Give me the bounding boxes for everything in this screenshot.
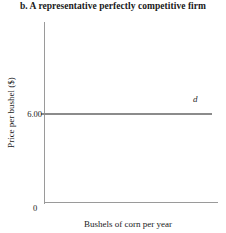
x-axis-line [44,202,218,203]
x-axis-title: Bushels of corn per year [30,219,226,230]
y-axis-title: Price per bushel ($) [6,54,17,172]
page-title: b. A representative perfectly competitiv… [0,0,226,13]
y-axis-tick-label-6: 6.00 [17,109,42,119]
origin-label: 0 [33,203,37,213]
demand-curve-line [45,113,212,115]
demand-curve-label: d [193,94,198,104]
figure-panel-b: b. A representative perfectly competitiv… [0,0,226,233]
